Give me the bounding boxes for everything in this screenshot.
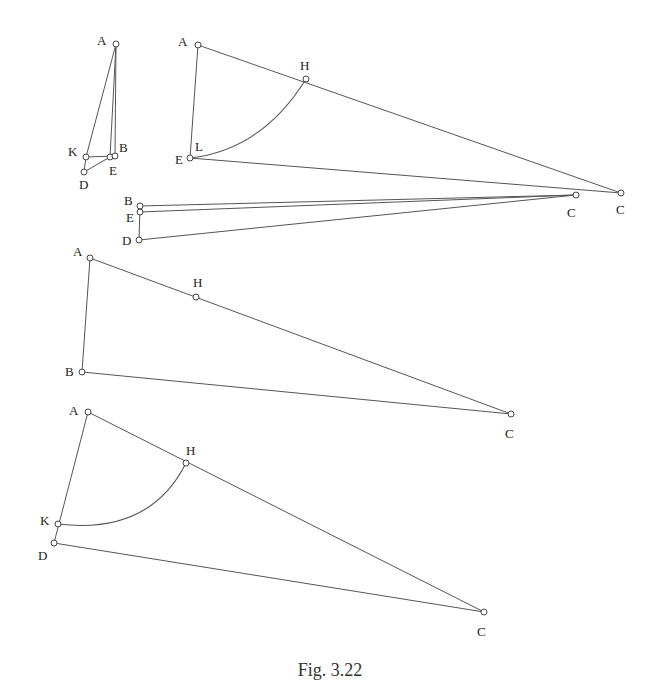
fig-small: AKEBD — [68, 33, 128, 192]
figure-caption: Fig. 3.22 — [0, 660, 660, 681]
point-D — [136, 237, 142, 243]
point-label-D: D — [79, 177, 88, 192]
segment-AC — [88, 412, 484, 612]
fig-bottom: AHKDC — [38, 403, 487, 639]
point-label-D: D — [38, 548, 47, 563]
fig-middle: AHBC — [65, 244, 514, 441]
point-B — [112, 153, 118, 159]
point-K — [83, 154, 89, 160]
point-C — [618, 190, 624, 196]
arc-KH — [58, 463, 186, 525]
point-label-A: A — [73, 244, 83, 259]
segment-AC — [90, 258, 511, 414]
point-C — [481, 609, 487, 615]
point-D — [51, 540, 57, 546]
point-label-B: B — [119, 140, 128, 155]
point-B — [137, 203, 143, 209]
point-H — [193, 294, 199, 300]
segment-EC — [190, 158, 621, 193]
point-label-E: E — [175, 152, 183, 167]
geometry-figure: AKEBDAHECLBEDCAHBCAHKDC — [0, 0, 660, 696]
point-label-B: B — [65, 364, 74, 379]
point-C — [573, 192, 579, 198]
segment-BC — [82, 372, 511, 414]
point-A — [87, 255, 93, 261]
point-label-E: E — [126, 210, 134, 225]
point-label-B: B — [124, 193, 133, 208]
point-label-C: C — [567, 205, 576, 220]
point-label-A: A — [97, 33, 107, 48]
point-A — [85, 409, 91, 415]
fig-thin: BEDC — [122, 192, 579, 248]
segment-DC — [139, 195, 576, 240]
point-B — [79, 369, 85, 375]
point-label-E: E — [109, 163, 117, 178]
segment-BC — [140, 195, 576, 206]
point-E — [137, 209, 143, 215]
point-C — [508, 411, 514, 417]
segment-AC — [198, 45, 621, 193]
point-A — [195, 42, 201, 48]
point-H — [183, 460, 189, 466]
point-label-K: K — [40, 513, 50, 528]
point-A — [113, 41, 119, 47]
point-H — [303, 76, 309, 82]
point-label-H: H — [186, 443, 195, 458]
segment-AB — [82, 258, 90, 372]
point-label-A: A — [178, 34, 188, 49]
point-label-A: A — [69, 403, 79, 418]
segment-AK — [86, 44, 116, 157]
point-label-C: C — [477, 624, 486, 639]
point-label-L: L — [195, 139, 203, 154]
point-K — [55, 521, 61, 527]
point-D — [81, 169, 87, 175]
point-label-H: H — [300, 58, 309, 73]
point-label-H: H — [193, 275, 202, 290]
segment-DC — [54, 543, 484, 612]
point-E — [187, 155, 193, 161]
point-label-C: C — [616, 202, 625, 217]
segment-EC — [140, 195, 576, 212]
arc-EH — [190, 79, 306, 158]
point-label-K: K — [68, 144, 78, 159]
point-label-D: D — [122, 233, 131, 248]
point-label-C: C — [505, 426, 514, 441]
fig-top-right: AHECL — [175, 34, 625, 217]
